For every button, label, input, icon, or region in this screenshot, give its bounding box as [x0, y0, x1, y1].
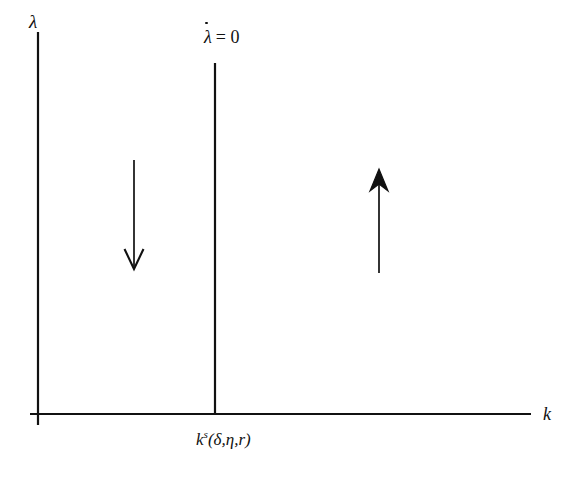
isocline-equals-zero: = 0: [216, 27, 240, 47]
lambda-axis-label: λ: [29, 12, 37, 31]
k-steady-state-arguments: (δ,η,r): [208, 430, 251, 449]
isocline-lambda-glyph: λ: [204, 27, 212, 47]
arrow-down-left-region: [125, 160, 144, 269]
arrow-up-right-region: [370, 169, 388, 273]
phase-diagram-figure: λ λ= 0 k ks(δ,η,r): [0, 0, 581, 480]
lambda-dot-symbol: λ: [204, 28, 212, 46]
isocline-label: λ= 0: [204, 28, 239, 46]
k-steady-state-label: ks(δ,η,r): [196, 431, 251, 448]
diagram-canvas: [0, 0, 581, 480]
k-steady-state-base: k: [196, 430, 204, 449]
k-axis-label: k: [543, 405, 551, 423]
